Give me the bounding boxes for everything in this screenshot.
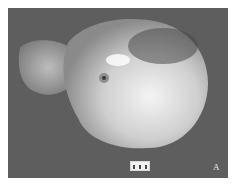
panel-label: A — [213, 163, 220, 172]
scale-bar — [130, 161, 150, 171]
specimen-mass — [8, 8, 228, 178]
specimen-photo: A — [8, 8, 228, 178]
